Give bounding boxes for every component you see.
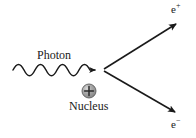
electron-label: e− xyxy=(171,119,180,130)
positron-charge-superscript: + xyxy=(176,1,181,10)
diagram-canvas xyxy=(0,0,196,138)
electron-charge-superscript: − xyxy=(176,116,181,125)
positron-label: e+ xyxy=(171,4,180,15)
photon-label: Photon xyxy=(37,49,71,61)
positron-track-arrow xyxy=(104,24,176,69)
photon-wave-line xyxy=(13,64,95,75)
nucleus-label: Nucleus xyxy=(69,100,108,112)
pair-production-diagram: Photon Nucleus e+ e− xyxy=(0,0,196,138)
electron-track-arrow xyxy=(104,71,175,112)
